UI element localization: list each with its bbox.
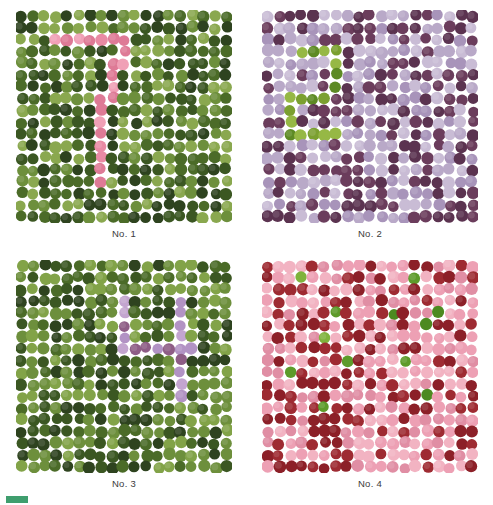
plate-4-dots [262,260,478,473]
plate-2-dots [262,10,478,223]
plate-3-dots [16,260,232,473]
plate-cell-2[interactable]: No. 2 [262,10,478,250]
plate-cell-3[interactable]: No. 3 [16,260,232,500]
footer-strip [6,496,34,505]
plate-4-label: No. 4 [262,478,478,489]
plates-grid: No. 1 No. 2 No. 3 No. 4 [0,0,493,505]
plate-1-label: No. 1 [16,228,232,239]
plate-cell-4[interactable]: No. 4 [262,260,478,500]
plate-3-label: No. 3 [16,478,232,489]
plate-1-dots [16,10,232,223]
plate-2-label: No. 2 [262,228,478,239]
footer-color-swatch [6,496,28,503]
plate-cell-1[interactable]: No. 1 [16,10,232,250]
